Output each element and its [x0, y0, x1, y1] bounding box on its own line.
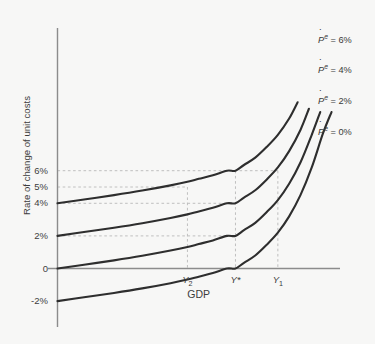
- y-axis-tick-label: -2%: [14, 296, 48, 306]
- y-axis-tick-label: 6%: [14, 166, 48, 176]
- y-axis-tick-label: 5%: [14, 182, 48, 192]
- y-axis-tick-label: 4%: [14, 198, 48, 208]
- curve-label: Pe = 4%: [318, 64, 352, 75]
- curve-line: [58, 102, 298, 203]
- x-axis-tick-label: Y2: [167, 275, 207, 287]
- curve-line: [58, 109, 309, 236]
- curve-line: [58, 112, 321, 268]
- x-axis-tick-label: Y*: [215, 275, 255, 285]
- curve-line: [58, 112, 332, 301]
- y-axis-tick-label: 2%: [14, 231, 48, 241]
- x-axis-title: GDP: [169, 288, 229, 300]
- curves-group: [58, 102, 332, 301]
- curve-label: Pe = 6%: [318, 34, 352, 45]
- curve-label: Pe = 2%: [318, 95, 352, 106]
- x-axis-tick-label: Y1: [258, 275, 298, 287]
- curve-label: Pe = 0%: [318, 126, 352, 137]
- y-axis-tick-label: 0: [14, 264, 48, 274]
- figure-container: Rate of change of unit costs GDP 6%5%4%2…: [0, 0, 375, 344]
